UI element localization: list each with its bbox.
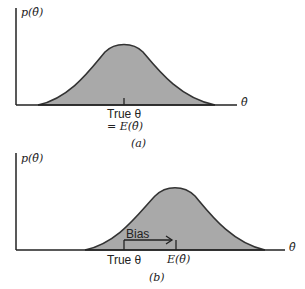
estimator-bias-diagram: p(θ̂) θ̂ True θ = E(θ̂) (a) p(θ̂) θ̂ Bia… [0, 0, 305, 289]
panel-a-graphic [16, 8, 237, 105]
panel-b-x-label: θ̂ [289, 241, 296, 254]
panel-a-true-theta-label: True θ [107, 107, 141, 121]
panel-b-distribution-curve [85, 188, 265, 250]
panel-a-caption: (a) [131, 137, 146, 150]
panel-b-y-label: p(θ̂) [21, 152, 43, 165]
panel-a-expectation-label: = E(θ̂) [107, 120, 143, 133]
panel-b-expectation-label: E(θ̂) [167, 253, 190, 266]
panel-b-caption: (b) [149, 271, 165, 284]
panel-a-distribution-curve [38, 45, 215, 106]
panel-a-y-label: p(θ̂) [21, 6, 43, 19]
panel-b-true-theta-label: True θ [107, 253, 141, 267]
panel-a-x-label: θ̂ [241, 96, 248, 109]
panel-b-bias-label: Bias [126, 227, 149, 241]
diagram-canvas [0, 0, 305, 289]
panel-b-graphic [16, 153, 285, 250]
